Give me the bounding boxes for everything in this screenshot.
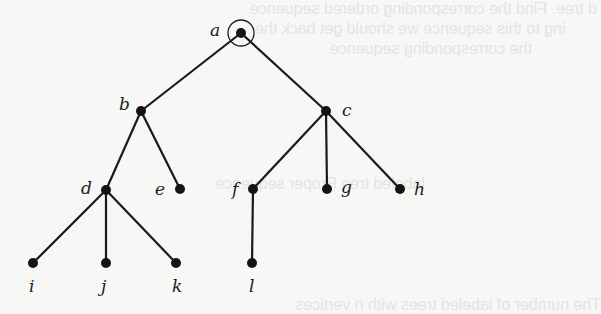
edge-a-c [241, 33, 326, 111]
vertex-a [236, 28, 246, 38]
vertex-label-d: d [81, 178, 92, 198]
edge-d-k [106, 190, 176, 263]
vertex-label-c: c [342, 100, 352, 120]
vertex-label-g: g [341, 177, 352, 197]
vertex-label-h: h [414, 179, 425, 199]
tree-labels: abcdefghijkl [29, 20, 425, 296]
edge-c-h [326, 111, 400, 189]
edge-c-g [326, 111, 327, 189]
vertex-label-b: b [119, 94, 130, 114]
vertex-b [136, 106, 146, 116]
tree-edges [33, 33, 400, 263]
vertex-e [175, 184, 185, 194]
edge-b-e [141, 111, 180, 189]
vertex-label-a: a [210, 20, 220, 40]
vertex-g [322, 184, 332, 194]
edge-a-b [141, 33, 241, 111]
vertex-label-e: e [155, 179, 165, 199]
vertex-d [101, 185, 111, 195]
edge-b-d [106, 111, 141, 190]
edge-c-f [253, 111, 326, 189]
vertex-label-j: j [97, 276, 107, 296]
vertex-f [248, 184, 258, 194]
tree-nodes [28, 28, 405, 268]
vertex-j [101, 258, 111, 268]
vertex-label-f: f [230, 179, 241, 199]
edge-f-l [252, 189, 253, 263]
edge-d-i [33, 190, 106, 263]
vertex-l [247, 258, 257, 268]
vertex-c [321, 106, 331, 116]
vertex-label-i: i [29, 276, 34, 296]
vertex-label-k: k [172, 276, 182, 296]
vertex-k [171, 258, 181, 268]
vertex-label-l: l [249, 276, 254, 296]
vertex-h [395, 184, 405, 194]
vertex-i [28, 258, 38, 268]
